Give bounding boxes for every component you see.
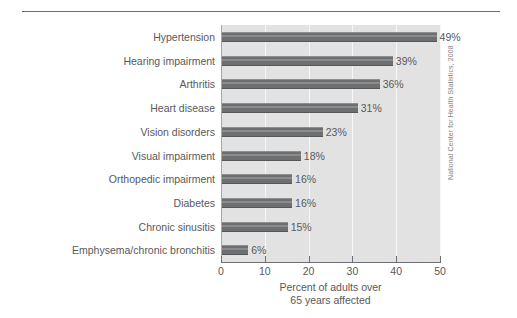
bar-highlight [222,154,301,156]
category-label: Vision disorders [140,125,215,139]
bar [222,222,288,232]
category-label: Diabetes [174,196,215,210]
x-tick-label-50: 50 [420,265,460,277]
bar [222,198,292,208]
bar-value-label: 15% [291,220,312,234]
bar-highlight [222,35,437,37]
bar-row: Hearing impairment39% [0,54,517,68]
bar-value-label: 49% [440,30,461,44]
category-label: Hypertension [153,30,215,44]
bar-row: Heart disease31% [0,101,517,115]
x-axis-line [221,262,440,263]
bar-row: Emphysema/chronic bronchitis6% [0,243,517,257]
bar [222,32,437,42]
bar [222,56,393,66]
bar-row: Visual impairment18% [0,149,517,163]
bar-value-label: 39% [396,54,417,68]
bar-row: Orthopedic impairment16% [0,172,517,186]
bar-row: Diabetes16% [0,196,517,210]
bar-value-label: 18% [304,149,325,163]
x-axis-caption-line-1: Percent of adults over [221,281,440,294]
bar-row: Vision disorders23% [0,125,517,139]
bar-value-label: 6% [251,243,266,257]
bar-row: Chronic sinusitis15% [0,220,517,234]
category-label: Orthopedic impairment [109,172,215,186]
bar-value-label: 31% [361,101,382,115]
bar [222,79,380,89]
bar [222,245,248,255]
bar-highlight [222,248,248,250]
bar [222,127,323,137]
category-label: Chronic sinusitis [139,220,215,234]
bar-chart-figure: 01020304050 Hypertension49%Hearing impai… [0,0,517,318]
source-credit: National Center for Health Statistics, 2… [447,45,455,180]
bar-highlight [222,225,288,227]
x-tick-label-10: 10 [245,265,285,277]
x-axis-caption: Percent of adults over 65 years affected [221,281,440,306]
x-tick-label-40: 40 [376,265,416,277]
bar-value-label: 16% [295,172,316,186]
bar-highlight [222,106,358,108]
x-axis-caption-line-2: 65 years affected [221,294,440,307]
bar-row: Hypertension49% [0,30,517,44]
bar-highlight [222,59,393,61]
top-divider-rule [22,11,500,12]
bar [222,174,292,184]
category-label: Arthritis [179,77,215,91]
bar-row: Arthritis36% [0,77,517,91]
bar-value-label: 23% [326,125,347,139]
bar-value-label: 36% [383,77,404,91]
bar [222,103,358,113]
bar-highlight [222,201,292,203]
bar-highlight [222,130,323,132]
category-label: Emphysema/chronic bronchitis [72,243,215,257]
bar [222,151,301,161]
x-tick-label-20: 20 [289,265,329,277]
category-label: Visual impairment [132,149,215,163]
bar-value-label: 16% [295,196,316,210]
bar-highlight [222,82,380,84]
x-tick-label-30: 30 [332,265,372,277]
x-tick-label-0: 0 [201,265,241,277]
bar-highlight [222,177,292,179]
category-label: Heart disease [150,101,215,115]
category-label: Hearing impairment [123,54,215,68]
